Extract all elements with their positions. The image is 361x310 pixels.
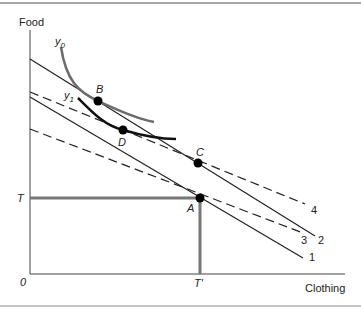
- budget-line-3: [30, 129, 303, 233]
- budget-line-2: [30, 59, 315, 236]
- curve-y0-label: y0: [54, 35, 66, 50]
- line-2-label: 2: [318, 234, 324, 246]
- point-b: [94, 97, 103, 106]
- origin-label: 0: [20, 276, 27, 288]
- budget-line-1: [30, 97, 303, 258]
- point-d: [119, 126, 128, 135]
- x-axis-label: Clothing: [305, 282, 345, 294]
- x-tick-t-prime-label: T': [194, 277, 204, 289]
- point-d-label: D: [118, 136, 126, 148]
- point-b-label: B: [96, 83, 103, 95]
- line-1-label: 1: [309, 251, 315, 263]
- point-c: [194, 159, 203, 168]
- y-axis-label: Food: [19, 16, 44, 28]
- indifference-curve-y1: [78, 98, 176, 139]
- line-3-label: 3: [301, 234, 307, 246]
- y-tick-t-label: T: [17, 192, 25, 204]
- trade-diagram: Food Clothing 0 T T' y0 y1 B D C A 1 2 3…: [0, 0, 361, 310]
- point-a-label: A: [186, 202, 194, 214]
- budget-line-4: [30, 92, 305, 204]
- point-a: [196, 194, 205, 203]
- curve-y1-label: y1: [63, 89, 74, 104]
- line-4-label: 4: [311, 204, 317, 216]
- point-c-label: C: [196, 146, 204, 158]
